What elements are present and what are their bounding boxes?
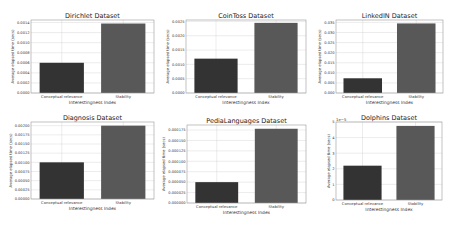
y-axis-label: Average elapsed time (secs) xyxy=(8,133,13,188)
subplot-1: 0.00000.00020.00040.00060.00080.00100.00… xyxy=(10,12,154,105)
bar-stability xyxy=(101,24,145,93)
x-tick-label: Stability xyxy=(268,94,284,99)
x-axis-label: Interestingness Index xyxy=(366,100,414,105)
y-tick-label: 0.000075 xyxy=(168,170,185,174)
y-axis-label: Average elapsed time (secs) xyxy=(10,29,15,84)
bar-stability xyxy=(101,126,145,199)
bar-conceptual-relevance xyxy=(195,182,238,203)
y-tick-label: 2 xyxy=(332,167,334,171)
bar-conceptual-relevance xyxy=(343,166,381,200)
x-tick-label: Conceptual relevance xyxy=(195,94,237,99)
bar-conceptual-relevance xyxy=(194,59,237,93)
y-tick-label: 0.0014 xyxy=(17,21,30,25)
y-tick-label: 0.0000 xyxy=(172,91,185,95)
chart-title: Diagnosis Dataset xyxy=(63,114,123,122)
bar-stability xyxy=(397,23,436,93)
y-tick-label: 0.010 xyxy=(324,71,335,75)
y-tick-label: 0.030 xyxy=(324,31,335,35)
bar-stability xyxy=(255,129,298,203)
y-tick-label: 0.00100 xyxy=(15,161,31,165)
chart-title: PediaLanguages Dataset xyxy=(206,117,287,125)
bar-conceptual-relevance xyxy=(40,162,84,199)
y-tick-label: 0.0010 xyxy=(17,41,30,45)
y-tick-label: 5 xyxy=(332,120,334,124)
y-tick-label: 0.000000 xyxy=(168,201,186,205)
axis-offset-label: 1e−5 xyxy=(336,117,347,122)
x-tick-label: Conceptual relevance xyxy=(342,94,384,99)
y-axis-label: Average elapsed time (secs) xyxy=(165,29,170,84)
y-tick-label: 0.00025 xyxy=(15,188,30,192)
y-tick-label: 0.0025 xyxy=(172,20,185,24)
y-tick-label: 0.00075 xyxy=(15,170,30,174)
figure: 0.00000.00020.00040.00060.00080.00100.00… xyxy=(0,0,462,225)
y-tick-label: 0.000100 xyxy=(168,160,186,164)
y-tick-label: 0.0010 xyxy=(172,63,185,67)
y-tick-label: 0.000125 xyxy=(168,149,185,153)
y-tick-label: 0.0004 xyxy=(17,71,30,75)
y-tick-label: 0.00125 xyxy=(15,151,30,155)
y-tick-label: 0.020 xyxy=(324,51,335,55)
y-tick-label: 0.015 xyxy=(324,61,334,65)
bar-conceptual-relevance xyxy=(40,63,84,93)
y-tick-label: 0.0008 xyxy=(17,51,30,55)
subplot-6: 012345Conceptual relevanceStabilityDolph… xyxy=(326,114,442,212)
x-axis-label: Interestingness Index xyxy=(69,100,117,105)
y-tick-label: 3 xyxy=(332,152,334,156)
bar-conceptual-relevance xyxy=(343,78,382,93)
x-tick-label: Conceptual relevance xyxy=(196,204,238,209)
x-tick-label: Stability xyxy=(268,204,284,209)
x-axis-label: Interestingness Index xyxy=(223,210,271,215)
y-tick-label: 0.0000 xyxy=(17,91,30,95)
y-tick-label: 0.00050 xyxy=(15,179,31,183)
y-tick-label: 0.00175 xyxy=(15,133,30,137)
y-tick-label: 1 xyxy=(332,183,334,187)
y-tick-label: 0.000025 xyxy=(168,191,185,195)
y-tick-label: 0.000150 xyxy=(168,139,186,143)
subplot-4: 0.000000.000250.000500.000750.001000.001… xyxy=(8,114,154,211)
y-axis-label: Average elapsed time (secs) xyxy=(326,133,331,188)
y-tick-label: 0.005 xyxy=(324,81,334,85)
bar-stability xyxy=(254,23,297,93)
y-axis-label: Average elapsed time (secs) xyxy=(317,29,322,84)
x-tick-label: Stability xyxy=(408,201,424,206)
subplot-3: 0.0000.0050.0100.0150.0200.0250.0300.035… xyxy=(317,12,443,105)
x-axis-label: Interestingness Index xyxy=(69,206,117,211)
y-tick-label: 0.0005 xyxy=(172,77,185,81)
y-tick-label: 0.0002 xyxy=(17,81,30,85)
y-tick-label: 0.000 xyxy=(324,91,335,95)
x-tick-label: Stability xyxy=(115,200,131,205)
y-tick-label: 0.00200 xyxy=(15,124,31,128)
y-tick-label: 0.000050 xyxy=(168,180,186,184)
y-tick-label: 0.025 xyxy=(324,41,334,45)
x-tick-label: Conceptual relevance xyxy=(41,200,83,205)
subplot-5: 0.0000000.0000250.0000500.0000750.000100… xyxy=(161,117,306,215)
y-tick-label: 0.0006 xyxy=(17,61,30,65)
chart-title: Dirichlet Dataset xyxy=(65,12,120,20)
y-tick-label: 4 xyxy=(332,136,335,140)
y-tick-label: 0.00000 xyxy=(15,197,31,201)
subplot-2: 0.00000.00050.00100.00150.00200.0025Conc… xyxy=(165,12,306,105)
y-tick-label: 0.0015 xyxy=(172,48,185,52)
bar-stability xyxy=(396,126,434,200)
chart-title: LinkedIN Dataset xyxy=(362,12,418,20)
x-axis-label: Interestingness Index xyxy=(365,207,413,212)
y-tick-label: 0 xyxy=(332,198,335,202)
x-tick-label: Stability xyxy=(115,94,131,99)
y-tick-label: 0.0012 xyxy=(17,31,30,35)
y-tick-label: 0.035 xyxy=(324,21,334,25)
x-tick-label: Stability xyxy=(408,94,424,99)
y-tick-label: 0.00150 xyxy=(15,142,31,146)
x-tick-label: Conceptual relevance xyxy=(41,94,83,99)
y-tick-label: 0.0020 xyxy=(172,34,185,38)
x-tick-label: Conceptual relevance xyxy=(342,201,384,206)
chart-title: CoinToss Dataset xyxy=(218,12,274,20)
chart-title: Dolphins Dataset xyxy=(361,114,417,122)
y-axis-label: Average elapsed time (secs) xyxy=(161,136,166,191)
y-tick-label: 0.000175 xyxy=(168,128,185,132)
x-axis-label: Interestingness Index xyxy=(222,100,270,105)
